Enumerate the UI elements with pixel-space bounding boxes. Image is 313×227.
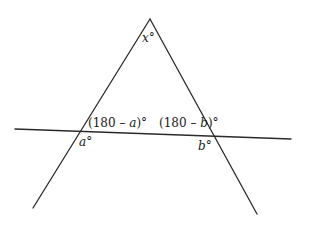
left-interior-angle-label: (180 – a)° — [88, 116, 147, 130]
apex-angle-label: x° — [142, 31, 155, 45]
transversal-line — [15, 129, 291, 139]
triangle-diagram: x° (180 – a)° (180 – b)° a° b° — [0, 0, 313, 227]
right-interior-angle-label: (180 – b)° — [159, 116, 219, 130]
right-exterior-angle-label: b° — [198, 139, 212, 153]
left-side-line — [33, 19, 150, 208]
left-exterior-angle-label: a° — [79, 135, 92, 149]
